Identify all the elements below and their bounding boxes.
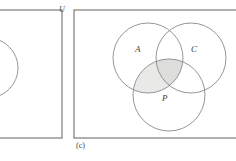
left-universe-rectangle [0, 10, 62, 138]
right-panel-group [74, 10, 236, 138]
panel-caption-c: (c) [76, 142, 85, 150]
set-label-C: C [191, 45, 197, 54]
circle-set-C [156, 23, 226, 93]
set-label-A: A [135, 45, 141, 54]
left-partial-circle [0, 38, 18, 98]
universe-label-U: U [59, 6, 65, 14]
set-label-P: P [162, 94, 168, 103]
venn-figure: U A C P (c) [0, 0, 236, 161]
left-panel-group [0, 10, 62, 138]
venn-diagram-canvas [0, 0, 236, 161]
